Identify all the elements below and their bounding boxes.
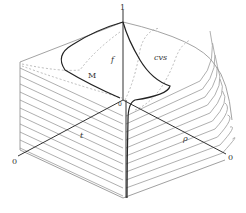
right-contour-line bbox=[126, 67, 220, 140]
axis-t-label: t bbox=[80, 131, 84, 140]
right-contour-line bbox=[126, 31, 212, 116]
dashed-curve-front bbox=[22, 66, 122, 98]
right-face-contours bbox=[126, 31, 235, 188]
left-contour-line bbox=[20, 100, 123, 148]
top-tick-label: 1 bbox=[120, 3, 125, 12]
left-contour-line bbox=[20, 132, 123, 180]
right-contour-line bbox=[126, 79, 222, 148]
right-origin-label: 0 bbox=[228, 153, 233, 162]
dashed-curve-right bbox=[135, 40, 190, 110]
left-face-contours bbox=[20, 68, 123, 196]
dashed-curve-left bbox=[22, 32, 120, 70]
curve-f-label: f bbox=[110, 55, 116, 64]
axis-rho bbox=[123, 100, 226, 154]
curve-m-label: M bbox=[88, 71, 96, 80]
curve-cvs-label: cvs bbox=[154, 53, 167, 62]
right-contour-line bbox=[126, 43, 215, 124]
right-contour-line bbox=[126, 91, 225, 156]
inner-tick-label: 0 bbox=[118, 100, 122, 107]
curve-cvs bbox=[123, 22, 170, 198]
left-origin-label: 0 bbox=[12, 157, 17, 166]
axis-rho-label: ρ bbox=[182, 134, 188, 143]
surface-diagram: 1 M f cvs 0 0 ρ t 0 bbox=[0, 0, 246, 213]
left-contour-line bbox=[20, 92, 123, 140]
left-contour-line bbox=[20, 108, 123, 156]
box-bottom-edge bbox=[20, 150, 225, 198]
left-contour-line bbox=[20, 148, 123, 196]
left-contour-line bbox=[20, 76, 123, 124]
left-contour-line bbox=[20, 124, 123, 172]
